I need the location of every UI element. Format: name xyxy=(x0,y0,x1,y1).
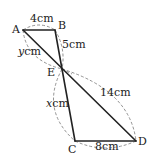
length-label-ab: 4cm xyxy=(30,12,54,25)
diagram-canvas: A B E C D 4cm 5cm ycm xcm 14cm 8cm xyxy=(0,0,156,159)
point-label-e: E xyxy=(47,66,55,79)
length-label-cd: 8cm xyxy=(95,140,119,153)
unit-cm: cm xyxy=(24,45,41,58)
point-label-a: A xyxy=(11,23,21,36)
length-label-be: 5cm xyxy=(62,38,86,51)
unit-cm: cm xyxy=(52,97,69,110)
length-label-ae: ycm xyxy=(17,45,41,58)
point-label-c: C xyxy=(68,143,76,156)
point-label-b: B xyxy=(58,19,66,32)
length-label-ec: xcm xyxy=(46,97,69,110)
point-label-d: D xyxy=(138,135,147,148)
geometry-figure: A B E C D 4cm 5cm ycm xcm 14cm 8cm xyxy=(0,0,156,159)
length-label-ed: 14cm xyxy=(100,86,131,99)
